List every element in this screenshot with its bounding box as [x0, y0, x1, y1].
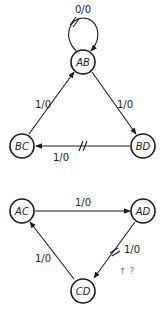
- edge-label: 1/0: [75, 197, 91, 208]
- edge-label: 1/0: [117, 99, 133, 110]
- edge-label: 0/0: [75, 4, 91, 15]
- node-bc: BC: [10, 134, 34, 158]
- state-diagram: 0/0 1/0 1/0 1/0 AB BC BD 1/0: [0, 0, 166, 322]
- edge-ab-self-loop: 0/0: [69, 4, 98, 51]
- node-ad: AD: [131, 199, 155, 223]
- edge-ac-to-ad: 1/0: [35, 197, 130, 211]
- edge-label: 1/0: [35, 253, 51, 264]
- stray-annotation: ↑ ?: [119, 266, 134, 276]
- node-bd: BD: [131, 134, 155, 158]
- edge-label: 1/0: [124, 244, 140, 255]
- edge-ab-to-bd: 1/0: [92, 72, 136, 134]
- svg-text:BC: BC: [15, 141, 29, 152]
- svg-text:AD: AD: [135, 206, 151, 217]
- svg-text:BD: BD: [136, 141, 151, 152]
- edge-label: 1/0: [53, 152, 69, 163]
- node-ac: AC: [10, 199, 34, 223]
- svg-text:CD: CD: [76, 286, 91, 297]
- edge-label: 1/0: [35, 99, 51, 110]
- svg-text:AB: AB: [75, 57, 90, 68]
- node-ab: AB: [71, 50, 95, 74]
- edge-bd-to-bc: 1/0: [36, 141, 130, 163]
- edge-bc-to-ab: 1/0: [29, 72, 74, 134]
- svg-text:AC: AC: [14, 206, 29, 217]
- edge-cd-to-ac: 1/0: [30, 222, 74, 279]
- node-cd: CD: [71, 279, 95, 303]
